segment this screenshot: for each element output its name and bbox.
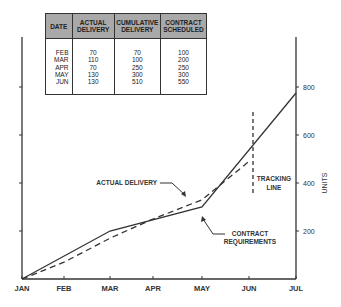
y-tick-label: 400 (303, 180, 315, 187)
contract-requirements-line (22, 93, 296, 279)
table-cell: 550 (178, 78, 189, 85)
table-cell: 70 (134, 49, 141, 56)
table-cell: 70 (90, 64, 97, 71)
y-tick-labels: 200400600800 (303, 84, 315, 235)
table-header: CONTRACT SCHEDULED (161, 14, 206, 39)
x-tick-label: FEB (57, 284, 73, 293)
table-cell: 70 (90, 49, 97, 56)
table-col-date: DATE FEB MAR APR MAY JUN (46, 14, 73, 94)
table-col-cumulative: CUMULATIVE DELIVERY 70 100 250 300 510 (115, 14, 161, 94)
table-cell: 300 (178, 71, 189, 78)
y-tick-label: 200 (303, 228, 315, 235)
x-tick-labels: JANFEBMARAPRMAYJUNJUL (14, 284, 303, 293)
table-header: DATE (46, 14, 72, 39)
annotations: ACTUAL DELIVERYCONTRACTREQUIREMENTSTRACK… (96, 112, 291, 246)
table-cell: 130 (88, 71, 99, 78)
x-tick-label: JUN (241, 284, 256, 293)
y-tick-label: 800 (303, 84, 315, 91)
ticks (19, 87, 299, 279)
annotation-actual-delivery: ACTUAL DELIVERY (96, 179, 157, 186)
table-cell: FEB (56, 49, 69, 56)
table-cell: 100 (132, 56, 143, 63)
table-cell: MAR (54, 56, 68, 63)
table-cell: APR (55, 64, 68, 71)
table-cell: 300 (132, 71, 143, 78)
arrowhead-icon (201, 216, 206, 222)
table-col-contract: CONTRACT SCHEDULED 100 200 250 300 550 (161, 14, 206, 94)
table-header: CUMULATIVE DELIVERY (115, 14, 160, 39)
series (22, 93, 296, 279)
table-cell: 250 (178, 64, 189, 71)
table-cell: 100 (178, 49, 189, 56)
table-cell: 200 (178, 56, 189, 63)
annotation-contract-requirements: REQUIREMENTS (224, 238, 277, 246)
x-tick-label: MAY (194, 284, 210, 293)
annotation-contract-requirements: CONTRACT (232, 230, 268, 237)
x-tick-label: JAN (14, 284, 29, 293)
y-tick-label: 600 (303, 132, 315, 139)
y-axis-label: UNITS (321, 172, 328, 193)
annotation-arrow (160, 183, 185, 195)
x-tick-label: MAR (101, 284, 119, 293)
table-cell: 130 (88, 78, 99, 85)
table-cell: 250 (132, 64, 143, 71)
x-tick-label: JUL (289, 284, 304, 293)
table-cell: 510 (132, 78, 143, 85)
annotation-tracking-line: LINE (267, 184, 282, 191)
table-header: ACTUAL DELIVERY (73, 14, 114, 39)
x-tick-label: APR (145, 284, 161, 293)
table-cell: JUN (56, 78, 69, 85)
annotation-tracking-line: TRACKING (257, 175, 291, 182)
table-cell: 110 (88, 56, 98, 63)
table-cell: MAY (55, 71, 69, 78)
delivery-table: DATE FEB MAR APR MAY JUN ACTUAL DELIVERY… (45, 13, 207, 95)
table-col-actual: ACTUAL DELIVERY 70 110 70 130 130 (73, 14, 115, 94)
annotation-arrow (203, 219, 225, 234)
